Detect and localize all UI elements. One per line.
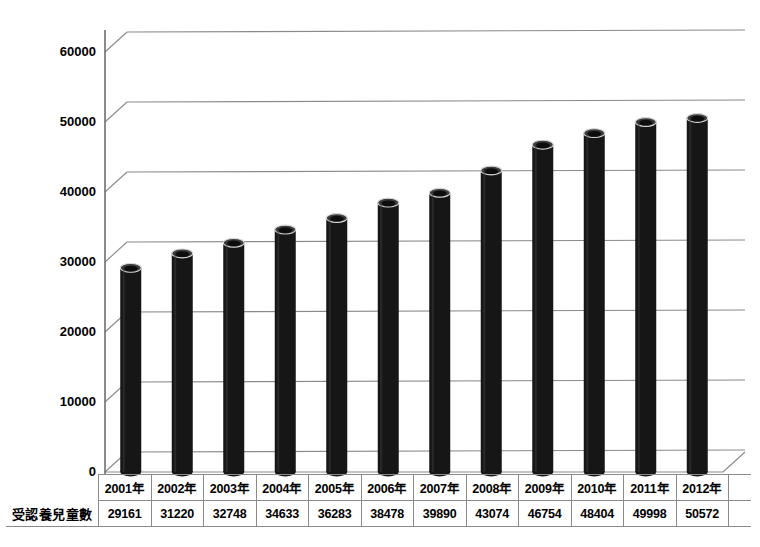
table-header-2003年: 2003年 [204,475,257,501]
table-value-2003年: 32748 [204,501,257,527]
table-value-2002年: 31220 [151,501,204,527]
table-value-2011年: 49998 [624,501,677,527]
table-header-2007年: 2007年 [414,475,467,501]
table-header-2004年: 2004年 [256,475,309,501]
bar-2008年 [481,166,502,476]
bar-2012年 [687,114,708,477]
table-value-2005年: 36283 [309,501,362,527]
table-header-2001年: 2001年 [99,475,152,501]
table-corner-cell [6,475,99,501]
bar-2009年 [532,140,553,476]
table-row-header: 2001年2002年2003年2004年2005年2006年2007年2008年… [6,475,751,501]
data-table: 2001年2002年2003年2004年2005年2006年2007年2008年… [6,474,751,527]
table-value-2010年: 48404 [571,501,624,527]
bar-2004年 [275,225,296,476]
table-header-2002年: 2002年 [151,475,204,501]
chart-canvas [0,0,760,547]
table-header-2011年: 2011年 [624,475,677,501]
table-depth-cell-value [729,501,752,527]
bar-2006年 [378,198,399,476]
bar-2002年 [172,249,193,476]
table-value-2006年: 38478 [361,501,414,527]
table-value-2009年: 46754 [519,501,572,527]
y-tick-40000: 40000 [60,185,96,198]
table-header-2006年: 2006年 [361,475,414,501]
table-value-2012年: 50572 [676,501,729,527]
y-tick-50000: 50000 [60,115,96,128]
table-row-values: 受認養兒童數 291613122032748346333628338478398… [6,501,751,527]
table-header-2008年: 2008年 [466,475,519,501]
y-tick-10000: 10000 [60,395,96,408]
table-depth-cell-header [729,475,752,501]
table-header-2005年: 2005年 [309,475,362,501]
bar-2005年 [326,214,347,477]
chart-stage: 0100002000030000400005000060000 2001年200… [0,0,760,547]
y-tick-30000: 30000 [60,255,96,268]
y-axis-tick-labels: 0100002000030000400005000060000 [0,0,96,547]
table-header-2012年: 2012年 [676,475,729,501]
bar-2007年 [429,188,450,476]
bar-2011年 [635,118,656,477]
table-value-2008年: 43074 [466,501,519,527]
bar-2003年 [223,238,244,476]
table-value-2001年: 29161 [99,501,152,527]
table-header-2009年: 2009年 [519,475,572,501]
table-row-label: 受認養兒童數 [6,501,99,527]
y-tick-60000: 60000 [60,45,96,58]
table-value-2004年: 34633 [256,501,309,527]
y-tick-20000: 20000 [60,325,96,338]
bar-2001年 [120,263,141,476]
table-value-2007年: 39890 [414,501,467,527]
bar-2010年 [584,129,605,477]
table-header-2010年: 2010年 [571,475,624,501]
